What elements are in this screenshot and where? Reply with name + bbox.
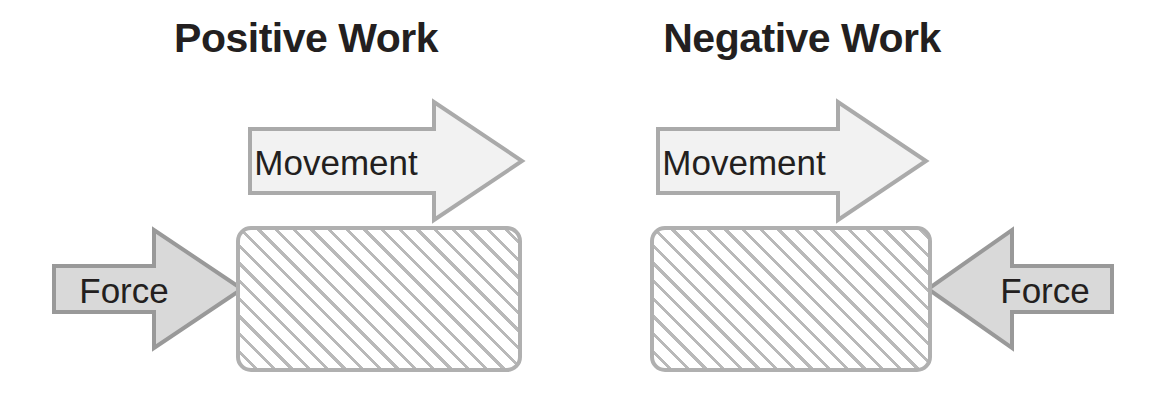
hatched-object-block-positive [236,226,522,372]
work-diagram-canvas: Positive Work Negative Work Movement For… [0,0,1166,394]
force-arrow-label: Force [79,272,168,310]
panel-title-positive-work: Positive Work [174,14,438,62]
hatched-object-block-negative [650,226,932,372]
movement-arrow-label: Movement [254,144,417,182]
movement-arrow-label-negative: Movement [662,144,825,182]
panel-title-negative-work: Negative Work [663,14,941,62]
force-arrow-label-negative: Force [1000,272,1089,310]
